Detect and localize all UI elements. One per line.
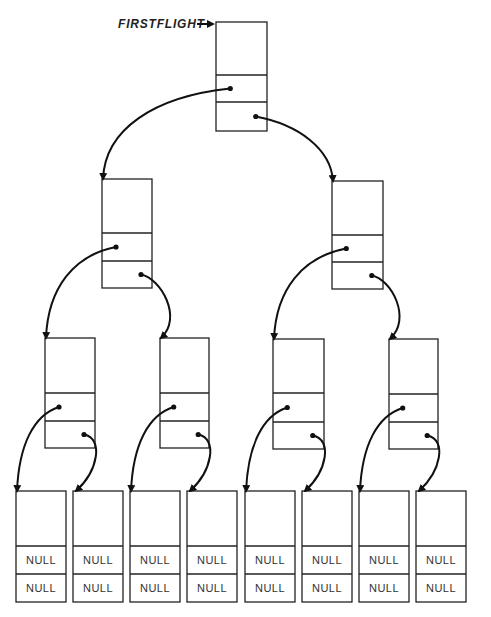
firstflight-label: FIRSTFLIGHT xyxy=(118,17,206,31)
right-null-label: NULL xyxy=(26,582,56,594)
right-null-label: NULL xyxy=(83,582,113,594)
leaf-node: NULLNULL xyxy=(245,491,295,602)
tree-node-root xyxy=(216,22,267,131)
leaf-node: NULLNULL xyxy=(130,491,180,602)
left-null-label: NULL xyxy=(140,554,170,566)
root-left-arrow-icon xyxy=(103,89,230,180)
tree-node-l1-left xyxy=(102,179,152,288)
leaf-node: NULLNULL xyxy=(302,491,352,602)
tree-node-l1-right xyxy=(332,181,383,289)
left-null-label: NULL xyxy=(197,554,227,566)
left-null-label: NULL xyxy=(369,554,399,566)
tree-node-l2-1 xyxy=(160,338,209,448)
leaf-node: NULLNULL xyxy=(416,491,466,602)
left-null-label: NULL xyxy=(26,554,56,566)
right-null-label: NULL xyxy=(426,582,456,594)
right-null-label: NULL xyxy=(140,582,170,594)
right-null-label: NULL xyxy=(255,582,285,594)
left-null-label: NULL xyxy=(426,554,456,566)
leaf-nodes: NULLNULLNULLNULLNULLNULLNULLNULLNULLNULL… xyxy=(16,491,466,602)
right-null-label: NULL xyxy=(369,582,399,594)
left-null-label: NULL xyxy=(312,554,342,566)
tree-node-l2-2 xyxy=(273,339,324,449)
right-null-label: NULL xyxy=(197,582,227,594)
tree-node-l2-0 xyxy=(45,338,95,448)
leaf-node: NULLNULL xyxy=(16,491,66,602)
firstflight-pointer: FIRSTFLIGHT xyxy=(118,17,213,31)
right-null-label: NULL xyxy=(312,582,342,594)
left-null-label: NULL xyxy=(83,554,113,566)
binary-tree-diagram: FIRSTFLIGHT NULLNULLNULLNULLNULLNULLNULL… xyxy=(0,0,491,617)
left-null-label: NULL xyxy=(255,554,285,566)
leaf-node: NULLNULL xyxy=(187,491,237,602)
tree-node-l2-3 xyxy=(389,339,438,449)
leaf-node: NULLNULL xyxy=(73,491,123,602)
leaf-node: NULLNULL xyxy=(359,491,409,602)
tree-nodes xyxy=(45,22,438,449)
